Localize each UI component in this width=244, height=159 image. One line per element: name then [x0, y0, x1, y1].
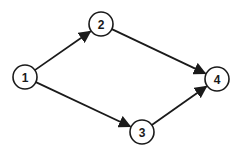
network-diagram: 1234: [0, 0, 244, 159]
node-4: 4: [205, 67, 229, 91]
edge-2-to-4-arrow: [112, 29, 205, 73]
edge-3-to-4-arrow: [152, 87, 207, 126]
edge-1-to-2-arrow: [35, 31, 90, 70]
node-label: 1: [22, 71, 29, 85]
node-3: 3: [130, 120, 154, 144]
node-2: 2: [89, 12, 113, 36]
node-label: 3: [139, 126, 146, 140]
edge-1-to-3-arrow: [36, 82, 130, 126]
node-label: 4: [214, 73, 221, 87]
node-1: 1: [13, 65, 37, 89]
node-label: 2: [98, 18, 105, 32]
